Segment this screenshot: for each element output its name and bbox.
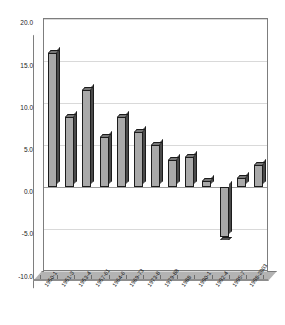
x-axis-label: 1953-4 xyxy=(78,271,93,288)
x-axis-label: 1951-3 xyxy=(61,271,76,288)
x-axis-label: 1992-4 xyxy=(215,271,230,288)
x-axis-label: 1964-6 xyxy=(112,271,127,288)
x-axis-label: 1969-73 xyxy=(129,268,145,288)
x-axis-label: 1998-2003 xyxy=(249,263,269,288)
x-axis-label: 1957-61 xyxy=(95,268,111,288)
x-axis-label: 1950-1 xyxy=(44,271,59,288)
x-axis-label: 1990-1 xyxy=(198,271,213,288)
x-axis-label: 1988 xyxy=(181,275,193,288)
x-axis-label: 1995-7 xyxy=(232,271,247,288)
bar-chart: 20.015.010.05.00.0-5.0-10.0 1950-11951-3… xyxy=(0,0,285,325)
x-axis-label: 1979-88 xyxy=(164,268,180,288)
x-axis-label: 1973-8 xyxy=(147,271,162,288)
x-axis-labels: 1950-11951-31953-41957-611964-61969-7319… xyxy=(0,0,285,325)
